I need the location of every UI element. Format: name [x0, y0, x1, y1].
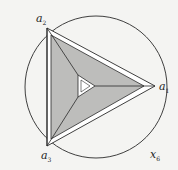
label-x6: x6 [150, 149, 160, 162]
shaded-triangle [51, 35, 144, 139]
label-a2: a2 [36, 13, 46, 26]
diagram-canvas [0, 0, 178, 170]
label-a3: a3 [41, 150, 51, 163]
label-a1: a1 [159, 81, 169, 94]
